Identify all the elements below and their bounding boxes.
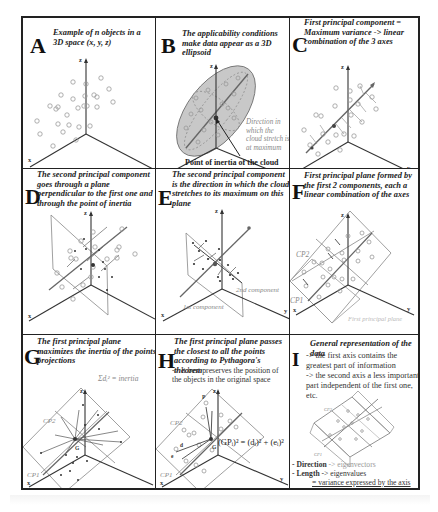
- panel-h: H The first principal plane passes the c…: [156, 335, 290, 488]
- svg-text:z: z: [213, 387, 216, 394]
- direction-key: - Direction: [292, 460, 327, 469]
- svg-text:x: x: [293, 306, 297, 313]
- variance-note: = variance expressed by the axis: [312, 478, 418, 487]
- svg-text:z: z: [341, 63, 344, 70]
- svg-text:x: x: [27, 479, 31, 486]
- svg-text:z: z: [80, 387, 83, 394]
- svg-text:x: x: [160, 479, 164, 486]
- direction-value: -> eigenvectors: [329, 460, 376, 469]
- panel-c: C First principal component = Maximum va…: [290, 18, 418, 169]
- panel-f: F First principal plane formed by the fi…: [290, 169, 418, 335]
- svg-text:G: G: [212, 444, 217, 450]
- svg-text:CP1: CP1: [314, 452, 322, 457]
- svg-text:x: x: [28, 156, 32, 163]
- pythagoras-projection-illustration: z x y G P d e: [156, 335, 290, 488]
- svg-text:z: z: [79, 56, 82, 63]
- panel-a: A Example of n objects in a 3D space (x,…: [23, 18, 156, 169]
- direction-row: - Direction -> eigenvectors: [292, 460, 418, 469]
- svg-text:z: z: [341, 211, 344, 218]
- length-value: -> eigenvalues: [322, 469, 367, 478]
- pca-figure-grid: A Example of n objects in a 3D space (x,…: [21, 16, 420, 490]
- cp2-label: CP2: [43, 417, 55, 426]
- cp1-label: CP1: [160, 471, 172, 480]
- svg-text:z: z: [210, 62, 213, 69]
- projection-inertia-illustration: z x G: [23, 335, 156, 488]
- panel-g: G The first principal plane maximizes th…: [23, 335, 156, 488]
- inertia-point-label: Point of inertia of the cloud: [185, 158, 279, 167]
- scatter-3d-illustration: z x: [23, 18, 156, 169]
- svg-text:G: G: [75, 445, 80, 451]
- cp2-label: CP2: [296, 251, 309, 260]
- panel-e: E The second principal component is the …: [156, 169, 290, 335]
- length-row: - Length -> eigenvalues: [292, 469, 418, 478]
- svg-text:CP2: CP2: [324, 407, 333, 412]
- svg-text:d: d: [180, 442, 183, 448]
- svg-text:y: y: [284, 307, 288, 314]
- svg-text:y: y: [280, 475, 284, 482]
- stretch-direction-note: Direction in which the cloud stretch is …: [246, 118, 290, 152]
- panel-i: I General representation of the data -> …: [290, 335, 418, 488]
- length-key: - Length: [292, 469, 320, 478]
- svg-text:P: P: [202, 394, 206, 400]
- cp2-label: CP2: [170, 419, 182, 428]
- svg-text:e: e: [171, 453, 174, 459]
- second-component-label: 2nd component: [236, 286, 279, 295]
- svg-text:z: z: [215, 207, 218, 214]
- principal-plane-label: First principal plane: [348, 315, 402, 324]
- pythagoras-formula: (GPᵢ)² = (dᵢ)² + (eᵢ)²: [218, 438, 284, 448]
- svg-text:x: x: [161, 311, 165, 318]
- svg-text:x: x: [28, 312, 32, 319]
- cp1-label: CP1: [290, 297, 303, 306]
- page-shadow: [10, 495, 430, 505]
- cp1-label: CP1: [27, 471, 39, 480]
- first-component-illustration: z x y: [290, 18, 418, 169]
- panel-b: B The applicability conditions make data…: [156, 18, 290, 169]
- panel-d: D The second principal component goes th…: [23, 169, 156, 335]
- svg-text:y: y: [407, 305, 411, 312]
- first-component-label: 1st component: [183, 303, 224, 312]
- svg-text:z: z: [84, 209, 87, 216]
- perpendicular-plane-illustration: z x: [23, 169, 156, 335]
